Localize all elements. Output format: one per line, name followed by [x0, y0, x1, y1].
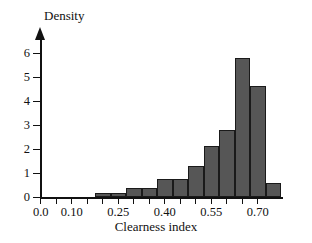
y-tick-label: 5	[4, 71, 30, 84]
plot-area: Density 0123456 0.00.100.250.400.550.70 …	[0, 0, 312, 243]
x-tick-mark	[40, 198, 41, 204]
y-tick-mark	[33, 125, 40, 126]
x-tick-mark	[102, 198, 103, 204]
x-tick-label: 0.10	[52, 206, 92, 219]
y-tick-label: 2	[4, 143, 30, 156]
x-tick-mark	[118, 198, 119, 204]
x-tick-mark	[226, 198, 227, 204]
x-tick-label: 0.40	[145, 206, 185, 219]
histogram-bar	[157, 179, 173, 198]
histogram-bar	[126, 188, 142, 198]
histogram-bar	[142, 188, 158, 198]
x-tick-mark	[242, 198, 243, 204]
y-tick-mark	[33, 77, 40, 78]
y-axis-title: Density	[44, 9, 84, 23]
y-tick-mark	[33, 149, 40, 150]
y-tick-mark	[33, 101, 40, 102]
x-axis-title: Clearness index	[0, 220, 312, 234]
x-tick-mark	[257, 198, 258, 204]
histogram-bar	[111, 193, 127, 198]
y-tick-label: 4	[4, 95, 30, 108]
y-tick-label: 0	[4, 191, 30, 204]
histogram-bar	[235, 58, 251, 197]
y-tick-mark	[33, 53, 40, 54]
x-tick-mark	[180, 198, 181, 204]
histogram-bar	[250, 86, 266, 198]
y-axis-line	[40, 38, 42, 198]
y-tick-label: 1	[4, 167, 30, 180]
x-tick-label: 0.25	[98, 206, 138, 219]
y-tick-mark	[33, 197, 40, 198]
y-tick-label: 6	[4, 47, 30, 60]
histogram-bar	[95, 193, 111, 198]
histogram-bar	[188, 166, 204, 198]
histogram-figure: Density 0123456 0.00.100.250.400.550.70 …	[0, 0, 312, 243]
x-tick-mark	[133, 198, 134, 204]
x-tick-mark	[164, 198, 165, 204]
x-tick-mark	[149, 198, 150, 204]
x-tick-label: 0.70	[238, 206, 278, 219]
x-tick-mark	[195, 198, 196, 204]
x-tick-mark	[56, 198, 57, 204]
histogram-bar	[219, 130, 235, 198]
x-tick-mark	[87, 198, 88, 204]
x-tick-mark	[211, 198, 212, 204]
x-tick-mark	[71, 198, 72, 204]
y-tick-mark	[33, 173, 40, 174]
histogram-bar	[266, 183, 282, 198]
histogram-bar	[173, 179, 189, 198]
x-tick-label: 0.55	[191, 206, 231, 219]
y-tick-label: 3	[4, 119, 30, 132]
histogram-bar	[204, 146, 220, 198]
